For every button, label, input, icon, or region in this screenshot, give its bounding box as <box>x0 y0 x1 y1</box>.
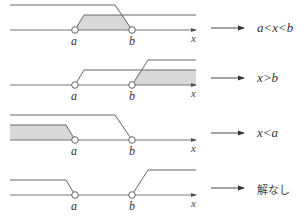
label-b: b <box>129 144 135 158</box>
open-point-a <box>72 82 79 89</box>
panel-both-between: a b x <box>10 5 244 48</box>
open-point-a <box>72 137 79 144</box>
condition-x-less-than-a-line <box>10 180 75 195</box>
label-x: x <box>190 197 196 209</box>
open-point-b <box>129 27 136 34</box>
label-a: a <box>71 199 77 213</box>
label-a: a <box>71 144 77 158</box>
label-x: x <box>190 32 196 44</box>
label-a: a <box>71 34 77 48</box>
open-point-a <box>72 192 79 199</box>
panel-greater-than-b: a b x <box>10 60 244 103</box>
label-b: b <box>129 89 135 103</box>
label-b: b <box>129 199 135 213</box>
result-no-solution: 解なし <box>257 181 290 197</box>
condition-x-greater-than-b-line <box>132 170 196 195</box>
label-x: x <box>190 87 196 99</box>
label-a: a <box>71 89 77 103</box>
open-point-a <box>72 27 79 34</box>
panel-no-solution: a b x <box>10 170 244 213</box>
label-b: b <box>129 34 135 48</box>
result-less-than-a: x<a <box>257 125 278 141</box>
panel-less-than-a: a b x <box>10 115 244 158</box>
label-x: x <box>190 142 196 154</box>
result-greater-than-b: x>b <box>257 70 278 86</box>
open-point-b <box>129 137 136 144</box>
open-point-b <box>129 192 136 199</box>
open-point-b <box>129 82 136 89</box>
result-both-between: a<x<b <box>257 20 293 36</box>
